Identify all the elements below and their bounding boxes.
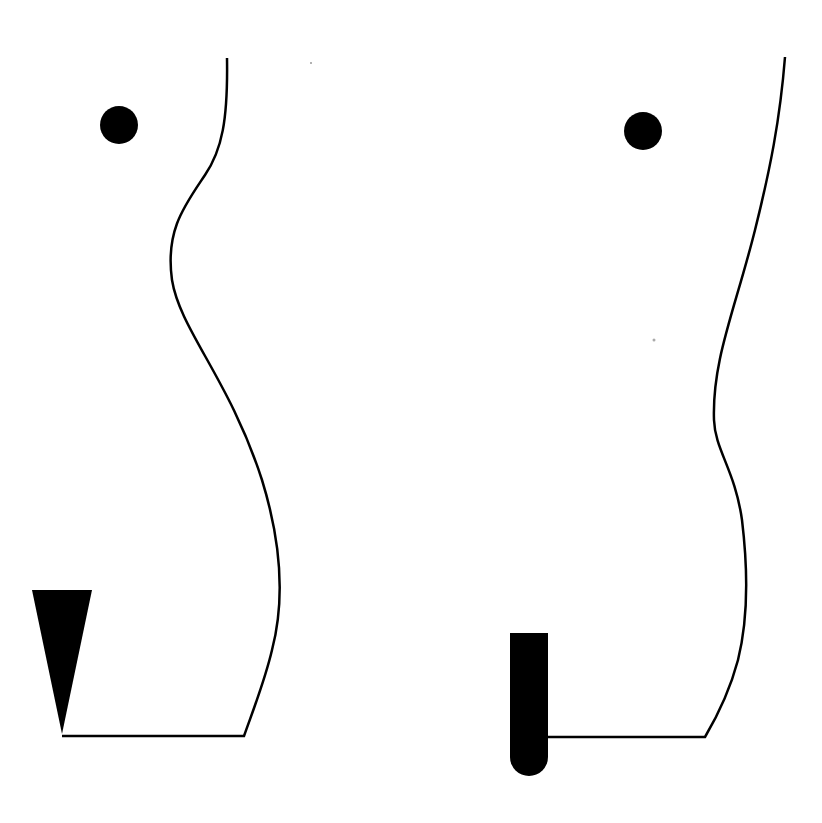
- right-dot: [624, 112, 662, 150]
- speck: [310, 62, 312, 64]
- diagram-canvas: [0, 0, 822, 823]
- left-dot: [100, 106, 138, 144]
- left-figure: [32, 58, 280, 736]
- right-body-outline: [548, 57, 785, 737]
- right-bar-marker: [510, 633, 548, 776]
- right-figure: [510, 57, 785, 776]
- speck: [653, 339, 656, 342]
- left-triangle-marker: [32, 590, 92, 734]
- left-body-outline: [62, 58, 280, 736]
